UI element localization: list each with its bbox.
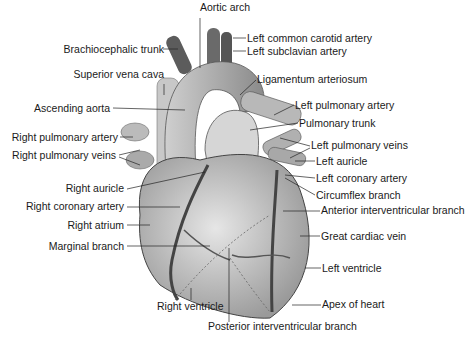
label-great-cardiac-vein: Great cardiac vein (321, 230, 406, 242)
label-right-pulmonary-veins: Right pulmonary veins (12, 149, 116, 161)
label-brachiocephalic-trunk: Brachiocephalic trunk (64, 43, 164, 55)
label-left-pulmonary-veins: Left pulmonary veins (311, 139, 408, 151)
label-right-coronary-artery: Right coronary artery (26, 200, 124, 212)
label-pulmonary-trunk: Pulmonary trunk (299, 117, 375, 129)
label-apex-of-heart: Apex of heart (322, 298, 384, 310)
heart-diagram: Aortic arch Brachiocephalic trunk Superi… (0, 0, 474, 339)
label-right-ventricle: Right ventricle (157, 300, 224, 312)
label-left-common-carotid-artery: Left common carotid artery (247, 32, 372, 44)
label-right-auricle: Right auricle (66, 182, 124, 194)
label-aortic-arch: Aortic arch (200, 1, 250, 13)
label-left-ventricle: Left ventricle (322, 262, 382, 274)
label-anterior-interventricular-branch: Anterior interventricular branch (321, 204, 465, 216)
label-left-auricle: Left auricle (316, 155, 367, 167)
label-posterior-interventricular-branch: Posterior interventricular branch (208, 320, 357, 332)
label-ascending-aorta: Ascending aorta (34, 102, 110, 114)
label-marginal-branch: Marginal branch (49, 240, 124, 252)
label-ligamentum-arteriosum: Ligamentum arteriosum (257, 73, 367, 85)
label-left-subclavian-artery: Left subclavian artery (247, 45, 347, 57)
label-circumflex-branch: Circumflex branch (316, 189, 401, 201)
label-right-pulmonary-artery: Right pulmonary artery (12, 131, 118, 143)
label-left-pulmonary-artery: Left pulmonary artery (295, 99, 394, 111)
label-right-atrium: Right atrium (67, 219, 124, 231)
label-superior-vena-cava: Superior vena cava (74, 68, 164, 80)
label-left-coronary-artery: Left coronary artery (316, 172, 407, 184)
